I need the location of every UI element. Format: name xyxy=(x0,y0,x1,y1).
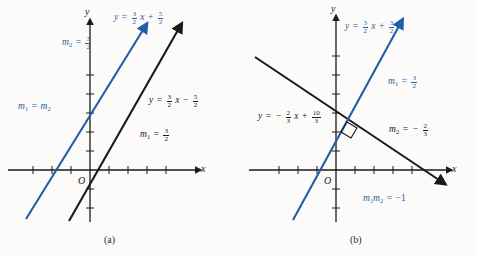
y-axis xyxy=(86,24,94,222)
equation-black-panel-b: y = − 23 x + 103 xyxy=(258,110,322,125)
x-axis-label: x xyxy=(201,164,205,174)
x-axis xyxy=(8,166,196,174)
origin-label: O xyxy=(78,176,85,186)
relation-label-panel-a: m1 = m2 xyxy=(18,102,51,112)
equation-blue-panel-a: y = 32 x + 52 xyxy=(114,11,164,26)
panel-a-graph xyxy=(0,0,238,232)
y-axis-label: y xyxy=(331,4,335,14)
slope-label-blue-panel-b: m1 = 32 xyxy=(388,75,418,90)
x-axis xyxy=(249,166,447,174)
panel-b-caption: (b) xyxy=(350,234,362,245)
slope-label-blue-panel-a: m2 = 32 xyxy=(62,36,92,51)
y-axis xyxy=(332,20,340,222)
line-black-panel-a xyxy=(69,30,178,221)
panel-b: x y O y = 32 x + 32 m1 = 32 y = − 23 x +… xyxy=(239,0,477,255)
y-axis-label: y xyxy=(85,7,89,17)
panel-a: x y O y = 32 x + 52 m2 = 32 m1 = m2 y = … xyxy=(0,0,238,255)
x-axis-label: x xyxy=(452,164,456,174)
line-blue-panel-a xyxy=(26,30,143,219)
panel-a-caption: (a) xyxy=(104,234,115,245)
slope-label-black-panel-a: m1 = 32 xyxy=(140,128,170,143)
slope-label-black-panel-b: m2 = − 23 xyxy=(389,123,429,138)
origin-label: O xyxy=(324,176,331,186)
figure-container: x y O y = 32 x + 52 m2 = 32 m1 = m2 y = … xyxy=(0,0,477,255)
equation-black-panel-a: y = 32 x − 52 xyxy=(149,94,199,109)
relation-label-panel-b: m1m2 = −1 xyxy=(363,194,406,204)
equation-blue-panel-b: y = 32 x + 32 xyxy=(345,20,395,35)
